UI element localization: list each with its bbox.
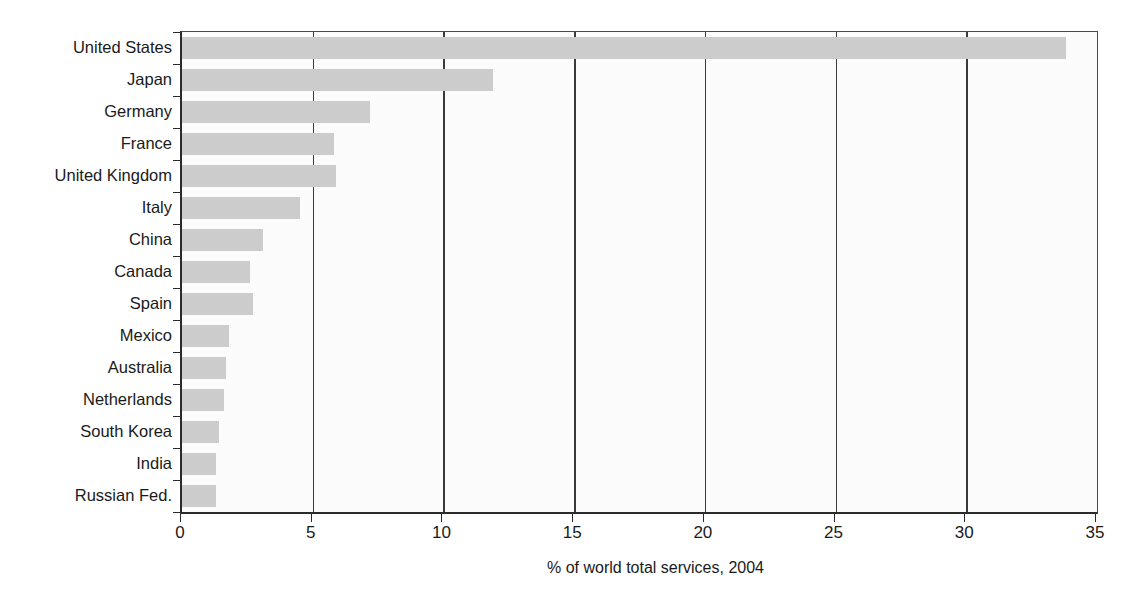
y-axis-tick xyxy=(173,288,182,289)
bar-slot xyxy=(182,192,1097,224)
y-axis-tick xyxy=(173,416,182,417)
x-axis-tick-label: 30 xyxy=(955,524,974,541)
y-axis-tick xyxy=(173,64,182,65)
bar[interactable] xyxy=(182,421,219,443)
bar[interactable] xyxy=(182,293,253,315)
bar-slot xyxy=(182,224,1097,256)
x-axis-tick xyxy=(180,513,181,522)
bar-slot xyxy=(182,352,1097,384)
y-axis-tick xyxy=(173,480,182,481)
bar[interactable] xyxy=(182,197,300,219)
bar[interactable] xyxy=(182,229,263,251)
y-axis-tick xyxy=(173,192,182,193)
y-axis-category-label: South Korea xyxy=(8,423,172,440)
bar-slot xyxy=(182,96,1097,128)
y-axis-category-label: China xyxy=(8,231,172,248)
x-axis-tick xyxy=(834,513,835,522)
y-axis-tick xyxy=(173,352,182,353)
bar[interactable] xyxy=(182,485,216,507)
bar-slot xyxy=(182,448,1097,480)
x-axis-tick-label: 15 xyxy=(563,524,582,541)
bar-slot xyxy=(182,256,1097,288)
bar[interactable] xyxy=(182,165,336,187)
bar-slot xyxy=(182,416,1097,448)
bar[interactable] xyxy=(182,357,226,379)
y-axis-category-label: Australia xyxy=(8,359,172,376)
bar[interactable] xyxy=(182,389,224,411)
x-axis: 05101520253035 xyxy=(180,513,1096,553)
y-axis-category-label: India xyxy=(8,455,172,472)
bar-slot xyxy=(182,64,1097,96)
y-axis-tick xyxy=(173,448,182,449)
bar-slot xyxy=(182,32,1097,64)
y-axis-category-label: United Kingdom xyxy=(8,167,172,184)
x-axis-tick-label: 10 xyxy=(432,524,451,541)
y-axis-category-label: France xyxy=(8,135,172,152)
x-axis-title-text: % of world total services, 2004 xyxy=(547,559,764,576)
y-axis-category-label: Canada xyxy=(8,263,172,280)
x-axis-tick xyxy=(572,513,573,522)
x-axis-title: % of world total services, 2004 xyxy=(0,560,1139,576)
x-axis-tick xyxy=(964,513,965,522)
bar-slot xyxy=(182,288,1097,320)
bar[interactable] xyxy=(182,133,334,155)
x-axis-tick-label: 20 xyxy=(693,524,712,541)
y-axis-category-label: Germany xyxy=(8,103,172,120)
bar-slot xyxy=(182,384,1097,416)
x-axis-tick-label: 0 xyxy=(175,524,184,541)
y-axis-category-label: Netherlands xyxy=(8,391,172,408)
x-axis-tick xyxy=(441,513,442,522)
y-axis-tick xyxy=(173,384,182,385)
y-axis-category-label: Japan xyxy=(8,71,172,88)
y-axis-category-label: Russian Fed. xyxy=(8,487,172,504)
bar[interactable] xyxy=(182,37,1066,59)
bar[interactable] xyxy=(182,261,250,283)
bar[interactable] xyxy=(182,453,216,475)
y-axis-tick xyxy=(173,160,182,161)
bar-slot xyxy=(182,320,1097,352)
y-axis-tick xyxy=(173,128,182,129)
horizontal-bar-chart: United StatesJapanGermanyFranceUnited Ki… xyxy=(0,0,1139,606)
y-axis-tick xyxy=(173,256,182,257)
plot-area xyxy=(180,31,1098,514)
bar-slot xyxy=(182,160,1097,192)
bar[interactable] xyxy=(182,101,370,123)
y-axis-tick xyxy=(173,224,182,225)
bar-slot xyxy=(182,128,1097,160)
x-axis-tick-label: 25 xyxy=(824,524,843,541)
y-axis-category-label: Italy xyxy=(8,199,172,216)
y-axis-category-label: Mexico xyxy=(8,327,172,344)
bar-slot xyxy=(182,480,1097,512)
bar[interactable] xyxy=(182,325,229,347)
y-axis-category-label: United States xyxy=(8,39,172,56)
y-axis-tick xyxy=(173,32,182,33)
y-axis-category-label: Spain xyxy=(8,295,172,312)
y-axis-tick xyxy=(173,96,182,97)
y-axis-tick xyxy=(173,320,182,321)
x-axis-tick xyxy=(1095,513,1096,522)
y-axis-labels: United StatesJapanGermanyFranceUnited Ki… xyxy=(8,31,172,511)
x-axis-tick-label: 5 xyxy=(306,524,315,541)
bar[interactable] xyxy=(182,69,493,91)
x-axis-tick xyxy=(311,513,312,522)
x-axis-tick-label: 35 xyxy=(1086,524,1105,541)
x-axis-tick xyxy=(703,513,704,522)
